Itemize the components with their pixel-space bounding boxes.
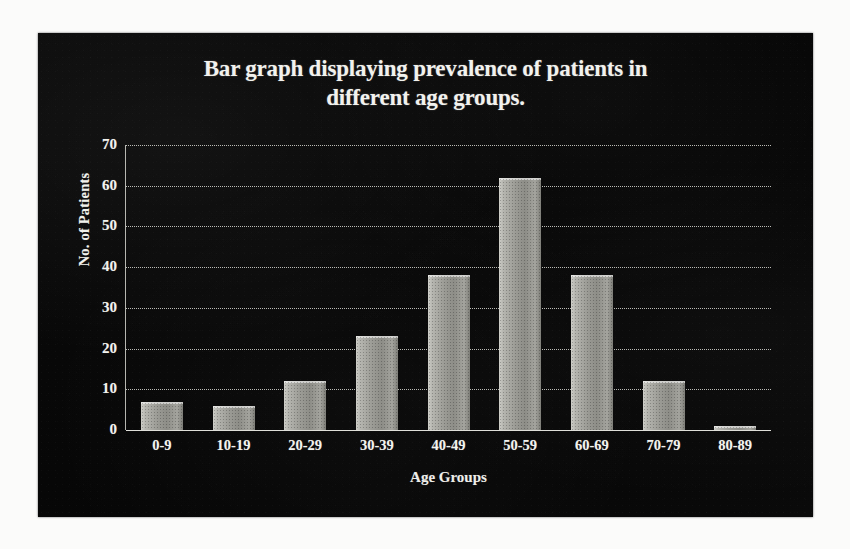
bar-0-9[interactable] (141, 402, 183, 431)
plot-area: 706050403020100 (126, 145, 771, 430)
chart-figure-panel: Bar graph displaying prevalence of patie… (38, 33, 813, 517)
y-tick-label-30: 30 (102, 299, 117, 316)
bar-70-79[interactable] (643, 381, 685, 430)
x-tick-label-70-79: 70-79 (628, 437, 700, 454)
chart-title: Bar graph displaying prevalence of patie… (88, 55, 763, 113)
gridline-0: 0 (126, 430, 771, 431)
bar-10-19[interactable] (213, 406, 255, 430)
x-tick-label-50-59: 50-59 (484, 437, 556, 454)
bar-slot-0-9 (126, 145, 198, 430)
x-axis-title: Age Groups (126, 469, 771, 486)
bar-slot-30-39 (341, 145, 413, 430)
bar-slot-20-29 (269, 145, 341, 430)
x-tick-label-0-9: 0-9 (126, 437, 198, 454)
bar-60-69[interactable] (571, 275, 613, 430)
bar-50-59[interactable] (499, 178, 541, 430)
bar-slot-40-49 (413, 145, 485, 430)
bar-20-29[interactable] (284, 381, 326, 430)
bar-slot-50-59 (484, 145, 556, 430)
y-axis-title: No. of Patients (76, 140, 93, 300)
y-tick-label-70: 70 (102, 136, 117, 153)
y-tick-label-60: 60 (102, 177, 117, 194)
y-tick-label-40: 40 (102, 259, 117, 276)
x-tick-label-40-49: 40-49 (413, 437, 485, 454)
bar-80-89[interactable] (714, 426, 756, 430)
bar-30-39[interactable] (356, 336, 398, 430)
y-tick-label-0: 0 (110, 421, 118, 438)
x-tick-label-10-19: 10-19 (198, 437, 270, 454)
bar-slot-10-19 (198, 145, 270, 430)
bars-layer (126, 145, 771, 430)
chart-title-line-2: different age groups. (88, 84, 763, 113)
chart-title-line-1: Bar graph displaying prevalence of patie… (88, 55, 763, 84)
scanned-page: Bar graph displaying prevalence of patie… (0, 0, 850, 549)
bar-slot-80-89 (699, 145, 771, 430)
x-tick-label-60-69: 60-69 (556, 437, 628, 454)
y-tick-label-10: 10 (102, 381, 117, 398)
x-tick-label-30-39: 30-39 (341, 437, 413, 454)
x-tick-label-80-89: 80-89 (699, 437, 771, 454)
bar-slot-60-69 (556, 145, 628, 430)
bar-40-49[interactable] (428, 275, 470, 430)
y-tick-label-50: 50 (102, 218, 117, 235)
bar-slot-70-79 (628, 145, 700, 430)
x-tick-label-20-29: 20-29 (269, 437, 341, 454)
x-axis-tick-labels: 0-910-1920-2930-3940-4950-5960-6970-7980… (126, 437, 771, 454)
y-tick-label-20: 20 (102, 340, 117, 357)
